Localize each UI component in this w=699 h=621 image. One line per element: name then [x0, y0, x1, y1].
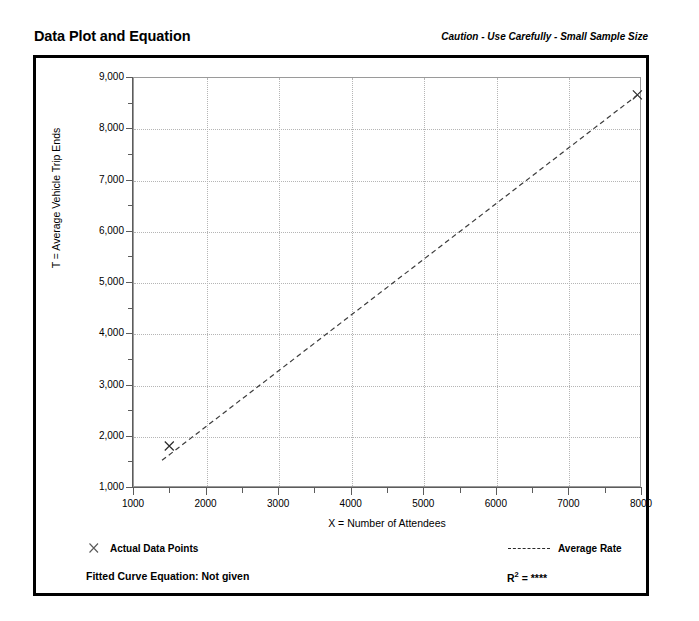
x-marker-icon: [86, 541, 104, 555]
x-axis-minor-tick: [242, 488, 243, 493]
chart-header: Data Plot and Equation Caution - Use Car…: [34, 28, 648, 50]
r-squared-prefix: R: [507, 572, 515, 584]
x-axis-tick-label: 4000: [321, 499, 381, 509]
equation-row: Fitted Curve Equation: Not given R2 = **…: [36, 570, 646, 588]
fitted-curve-equation: Fitted Curve Equation: Not given: [86, 570, 249, 582]
x-axis-tick-label: 5000: [393, 499, 453, 509]
legend-item-average-rate: Average Rate: [508, 540, 622, 556]
x-axis-minor-tick: [532, 488, 533, 493]
y-axis-tick-label: 8,000: [64, 123, 124, 133]
legend: Actual Data Points Average Rate: [36, 540, 646, 558]
x-axis-minor-tick: [169, 488, 170, 493]
x-axis-title: X = Number of Attendees: [133, 517, 641, 529]
x-axis-minor-tick: [460, 488, 461, 493]
x-axis-tick-label: 7000: [538, 499, 598, 509]
r-squared-number: = ****: [519, 572, 547, 584]
x-axis-tick: [278, 488, 279, 495]
y-axis-title: T = Average Vehicle Trip Ends: [50, 108, 62, 288]
y-axis-tick-label: 4,000: [64, 328, 124, 338]
x-axis-tick-label: 1000: [103, 499, 163, 509]
y-axis-tick: [126, 282, 133, 283]
page-title: Data Plot and Equation: [34, 28, 191, 44]
x-axis-tick: [423, 488, 424, 495]
x-axis-tick: [133, 488, 134, 495]
series-layer: [133, 77, 641, 487]
y-axis-tick: [126, 180, 133, 181]
y-axis-tick: [126, 333, 133, 334]
legend-label-average: Average Rate: [558, 543, 622, 554]
y-axis-tick: [126, 385, 133, 386]
average-rate-line: [162, 93, 640, 460]
r-squared-value: R2 = ****: [507, 570, 547, 584]
x-axis-tick-label: 6000: [466, 499, 526, 509]
x-axis-minor-tick: [605, 488, 606, 493]
x-axis-tick: [496, 488, 497, 495]
y-axis-tick: [126, 128, 133, 129]
x-axis-minor-tick: [387, 488, 388, 493]
y-axis-tick-label: 5,000: [64, 277, 124, 287]
legend-item-actual-data-points: Actual Data Points: [86, 540, 198, 556]
x-axis-tick-label: 3000: [248, 499, 308, 509]
x-axis-minor-tick: [314, 488, 315, 493]
caution-note: Caution - Use Carefully - Small Sample S…: [441, 31, 648, 42]
dashed-line-icon: [508, 548, 550, 549]
y-axis-tick-label: 2,000: [64, 431, 124, 441]
y-axis-tick-label: 9,000: [64, 72, 124, 82]
x-axis-tick-label: 2000: [176, 499, 236, 509]
y-axis-tick-label: 6,000: [64, 226, 124, 236]
y-axis-tick: [126, 77, 133, 78]
x-axis-tick-label: 8000: [611, 499, 671, 509]
y-axis-tick: [126, 436, 133, 437]
legend-label-actual: Actual Data Points: [110, 543, 198, 554]
y-axis-tick-label: 7,000: [64, 175, 124, 185]
x-axis-tick: [206, 488, 207, 495]
y-axis-tick-label: 3,000: [64, 380, 124, 390]
data-point-marker: [165, 442, 174, 451]
x-axis-tick: [351, 488, 352, 495]
x-axis-tick: [568, 488, 569, 495]
y-axis-tick: [126, 487, 133, 488]
y-axis-tick: [126, 231, 133, 232]
chart-frame: 1,0002,0003,0004,0005,0006,0007,0008,000…: [33, 55, 649, 596]
x-axis-tick: [641, 488, 642, 495]
y-axis-tick-label: 1,000: [64, 482, 124, 492]
